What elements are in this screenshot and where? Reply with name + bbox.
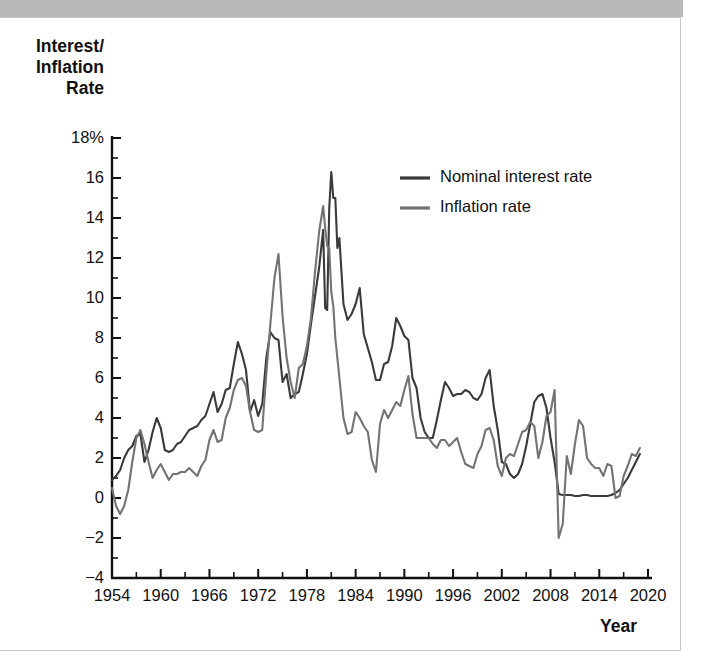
figure-page: Interest/ Inflation Rate Year −4−2024681… [0,0,711,669]
line-plot [0,0,711,669]
legend-group [400,178,430,208]
series-line-nominal [112,172,640,496]
series-group [112,172,640,538]
chart-area: Interest/ Inflation Rate Year −4−2024681… [0,0,711,669]
axes-group [111,136,652,578]
series-line-inflation [112,206,640,538]
